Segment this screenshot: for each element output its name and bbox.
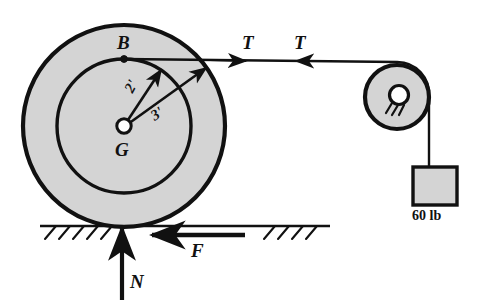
label-block-weight: 60 lb <box>412 209 441 223</box>
pulley-hub <box>390 86 409 105</box>
figure-canvas: B G 2' 3' T T F N 60 lb <box>0 0 483 306</box>
pulley-assembly <box>365 65 429 129</box>
label-center-g: G <box>115 140 129 159</box>
center-hub <box>117 119 131 133</box>
ground-hatch-left <box>45 226 112 239</box>
label-tension-left: T <box>242 33 254 52</box>
label-tension-right: T <box>294 33 306 52</box>
ground-hatch-right <box>264 226 317 239</box>
hanging-block <box>413 167 457 205</box>
label-friction: F <box>191 241 204 260</box>
label-normal: N <box>130 272 144 291</box>
tension-arrow-left <box>210 60 246 61</box>
label-point-b: B <box>117 33 130 52</box>
